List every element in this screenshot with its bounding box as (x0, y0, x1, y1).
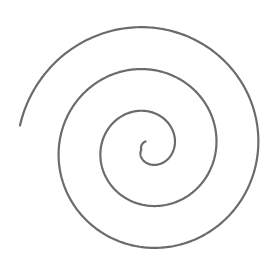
spiral-canvas (0, 0, 262, 263)
spiral-curve (20, 27, 258, 248)
spiral-figure (0, 0, 262, 263)
